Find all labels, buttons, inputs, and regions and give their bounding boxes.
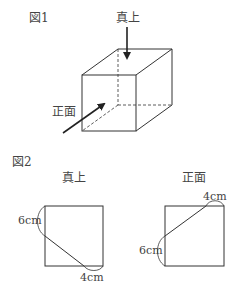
front-view-square (158, 201, 225, 266)
top-view-dim-left: 6cm (18, 215, 42, 226)
front-view-dim-left: 6cm (139, 245, 163, 256)
front-view-dim-top: 4cm (203, 191, 227, 202)
top-view-dim-bottom: 4cm (80, 272, 104, 283)
figure1-title: 図1 (29, 12, 49, 24)
label-top-direction: 真上 (116, 12, 140, 24)
cube (82, 49, 172, 131)
figure2-title: 図2 (12, 156, 32, 168)
front-view-label: 正面 (182, 172, 206, 184)
diagram-canvas (0, 0, 238, 297)
label-front-direction: 正面 (52, 106, 76, 118)
top-view-label: 真上 (62, 172, 86, 184)
top-view-square (38, 206, 104, 271)
